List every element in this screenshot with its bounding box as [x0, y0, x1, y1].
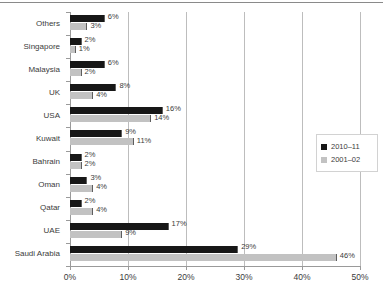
bar-group: 17%9% [70, 220, 360, 243]
bar-group: 2%1% [70, 35, 360, 58]
category-label-others: Others [0, 19, 60, 29]
bar-end-cap [150, 115, 151, 122]
bar-value-label: 6% [108, 59, 119, 67]
horizontal-bar-chart: 6%3%2%1%6%2%8%4%16%14%9%11%2%2%3%4%2%4%1… [0, 0, 383, 302]
legend-label: 2010–11 [331, 142, 360, 151]
bar-value-label: 16% [166, 105, 181, 113]
category-label-bahrain: Bahrain [0, 157, 60, 167]
bar-value-label: 2% [85, 197, 96, 205]
bar-value-label: 14% [154, 114, 169, 122]
category-label-malaysia: Malaysia [0, 65, 60, 75]
x-tick-mark [128, 266, 129, 270]
bar-group: 6%2% [70, 58, 360, 81]
bar-value-label: 46% [340, 252, 355, 260]
x-tick-mark [186, 266, 187, 270]
x-tick-mark [302, 266, 303, 270]
bar-series-1[interactable] [70, 154, 82, 161]
bar-series-2[interactable] [70, 231, 122, 238]
bar-end-cap [115, 84, 116, 91]
y-tick-mark [66, 127, 70, 128]
y-tick-mark [66, 220, 70, 221]
legend-item-series-2[interactable]: 2001–02 [321, 153, 373, 166]
bar-value-label: 1% [79, 45, 90, 53]
bar-end-cap [104, 15, 105, 22]
bar-series-1[interactable] [70, 107, 163, 114]
bar-value-label: 2% [85, 151, 96, 159]
y-tick-mark [66, 151, 70, 152]
legend-item-series-1[interactable]: 2010–11 [321, 140, 373, 153]
bar-series-2[interactable] [70, 138, 134, 145]
bar-end-cap [336, 254, 337, 261]
category-label-oman: Oman [0, 180, 60, 190]
bar-end-cap [81, 200, 82, 207]
bar-series-2[interactable] [70, 185, 93, 192]
bar-end-cap [92, 185, 93, 192]
category-label-saudi-arabia: Saudi Arabia [0, 249, 60, 259]
bar-series-1[interactable] [70, 200, 82, 207]
bar-series-2[interactable] [70, 23, 87, 30]
x-tick-label: 50% [351, 272, 368, 282]
bar-group: 3%4% [70, 174, 360, 197]
chart-legend: 2010–11 2001–02 [316, 134, 378, 172]
bar-series-2[interactable] [70, 162, 82, 169]
x-tick-label: 20% [177, 272, 194, 282]
bar-group: 29%46% [70, 243, 360, 266]
bar-end-cap [133, 138, 134, 145]
y-tick-mark [66, 174, 70, 175]
y-tick-mark [66, 243, 70, 244]
bar-end-cap [168, 223, 169, 230]
bar-value-label: 11% [137, 137, 151, 145]
bar-value-label: 3% [90, 22, 101, 30]
bar-end-cap [86, 177, 87, 184]
bar-series-2[interactable] [70, 115, 151, 122]
bar-end-cap [86, 23, 87, 30]
bar-end-cap [121, 231, 122, 238]
bar-end-cap [237, 246, 238, 253]
x-tick-mark [70, 266, 71, 270]
bar-value-label: 4% [96, 206, 107, 214]
bar-value-label: 4% [96, 183, 107, 191]
bar-end-cap [92, 92, 93, 99]
category-label-singapore: Singapore [0, 42, 60, 52]
bar-series-2[interactable] [70, 69, 82, 76]
bar-series-1[interactable] [70, 177, 87, 184]
category-label-uk: UK [0, 88, 60, 98]
x-tick-label: 40% [293, 272, 310, 282]
bar-value-label: 2% [85, 160, 96, 168]
bar-series-1[interactable] [70, 223, 169, 230]
bar-end-cap [75, 46, 76, 53]
y-tick-mark [66, 81, 70, 82]
bar-series-1[interactable] [70, 246, 238, 253]
bar-series-2[interactable] [70, 92, 93, 99]
legend-label: 2001–02 [331, 155, 360, 164]
y-tick-mark [66, 197, 70, 198]
bar-value-label: 6% [108, 13, 119, 21]
x-tick-label: 30% [235, 272, 252, 282]
bar-value-label: 3% [90, 174, 101, 182]
bar-series-1[interactable] [70, 84, 116, 91]
legend-swatch-icon [321, 157, 327, 163]
bar-series-2[interactable] [70, 254, 337, 261]
bar-series-1[interactable] [70, 130, 122, 137]
category-label-uae: UAE [0, 226, 60, 236]
bar-end-cap [81, 69, 82, 76]
bar-series-2[interactable] [70, 208, 93, 215]
y-tick-mark [66, 104, 70, 105]
bar-value-label: 17% [172, 220, 187, 228]
bar-end-cap [81, 162, 82, 169]
x-axis-line [70, 266, 360, 267]
bar-end-cap [81, 154, 82, 161]
bar-value-label: 4% [96, 91, 107, 99]
x-tick-label: 10% [119, 272, 136, 282]
bar-series-2[interactable] [70, 46, 76, 53]
bar-end-cap [121, 130, 122, 137]
legend-swatch-icon [321, 144, 327, 150]
y-tick-mark [66, 35, 70, 36]
bar-group: 8%4% [70, 81, 360, 104]
bar-end-cap [104, 61, 105, 68]
bar-group: 6%3% [70, 12, 360, 35]
x-tick-mark [360, 266, 361, 270]
bar-value-label: 29% [241, 243, 256, 251]
category-label-qatar: Qatar [0, 203, 60, 213]
bar-end-cap [92, 208, 93, 215]
